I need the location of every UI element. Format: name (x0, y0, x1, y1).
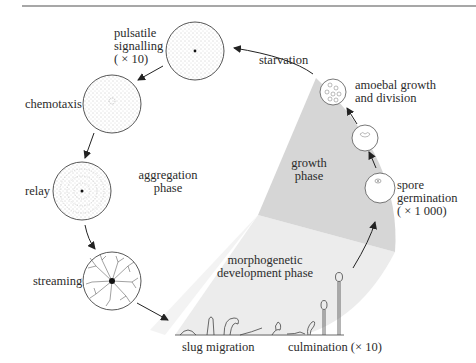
pulsatile-dish (166, 22, 224, 80)
morphogenetic-phase-label: morphogenetic development phase (210, 254, 320, 280)
aggregation-phase-label: aggregation phase (128, 169, 208, 195)
arrow-relay-to-streaming (85, 225, 95, 249)
spore-dish (365, 173, 395, 203)
amoeba-emerging-dish (352, 125, 378, 151)
streaming-dish (83, 252, 141, 310)
amoebal-growth-label: amoebal growth and division (355, 79, 436, 105)
dictyostelium-life-cycle-diagram: pulsatile signalling ( × 10) starvation … (0, 0, 476, 363)
growth-phase-label: growth phase (274, 157, 344, 183)
spore-germination-label: spore germination ( × 1 000) (397, 179, 457, 218)
arrow-pulsatile-to-chemotaxis (138, 66, 163, 80)
arrow-streaming-to-slug (137, 303, 168, 320)
streaming-label: streaming (33, 275, 82, 288)
chemotaxis-label: chemotaxis (25, 98, 82, 111)
relay-dish (53, 162, 111, 220)
chemotaxis-dish (83, 75, 141, 133)
starvation-label: starvation (259, 54, 308, 67)
arrow-chemotaxis-to-relay (85, 133, 94, 158)
phase-shading (150, 78, 396, 336)
slug-migration-label: slug migration (182, 341, 255, 354)
relay-label: relay (25, 185, 50, 198)
pulsatile-signalling-label: pulsatile signalling ( × 10) (114, 27, 163, 66)
amoebal-dish (320, 79, 346, 105)
culmination-label: culmination (× 10) (288, 341, 382, 354)
